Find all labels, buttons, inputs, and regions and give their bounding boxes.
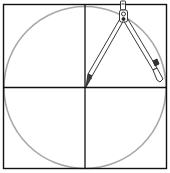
compass-needle-tip [86,74,92,87]
diagram-canvas [0,0,170,173]
compass-pencil-tip [153,68,163,82]
compass-icon [86,1,163,87]
compass-circle-diagram [0,0,170,173]
compass-needle-leg [88,17,125,76]
compass-handle [121,1,126,10]
compass-pivot [122,12,126,16]
